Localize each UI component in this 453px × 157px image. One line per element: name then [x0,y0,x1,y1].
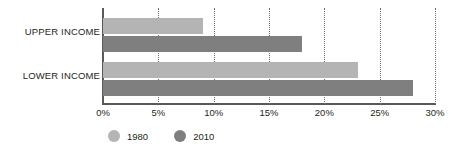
x-tick-label-25%: 25% [370,107,389,118]
legend-item-2010[interactable]: 2010 [174,130,214,142]
category-label-upper-income: UPPER INCOME [0,26,100,37]
legend-label-1980: 1980 [127,131,148,142]
gridline-30% [435,8,436,104]
category-label-lower-income: LOWER INCOME [0,70,100,81]
legend: 19802010 [108,130,214,142]
x-tick-label-30%: 30% [425,107,444,118]
bar-upper-income-2010 [103,36,302,52]
x-tick-label-20%: 20% [315,107,334,118]
legend-swatch-1980 [108,130,120,142]
x-tick-label-10%: 10% [204,107,223,118]
bar-chart: UPPER INCOME LOWER INCOME 0%5%10%15%20%2… [0,0,453,157]
x-tick-label-5%: 5% [151,107,165,118]
plot-area: 0%5%10%15%20%25%30% [103,8,435,104]
bar-upper-income-1980 [103,18,203,34]
x-tick-label-0%: 0% [96,107,110,118]
legend-item-1980[interactable]: 1980 [108,130,148,142]
legend-swatch-2010 [174,130,186,142]
legend-label-2010: 2010 [193,131,214,142]
bar-lower-income-1980 [103,62,358,78]
bar-lower-income-2010 [103,80,413,96]
x-tick-label-15%: 15% [259,107,278,118]
